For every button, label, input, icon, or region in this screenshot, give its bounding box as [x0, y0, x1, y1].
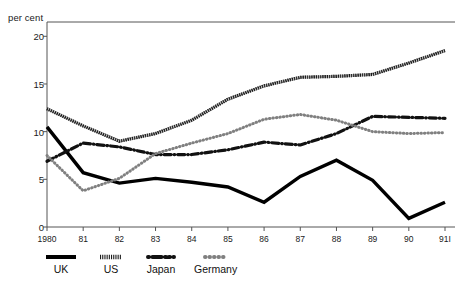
- plot-area: [0, 0, 462, 289]
- legend-label: UK: [54, 263, 69, 275]
- legend-entry-uk: UK: [44, 252, 78, 275]
- legend-label: US: [104, 263, 119, 275]
- solid-thick-swatch: [44, 252, 78, 262]
- legend-entry-us: US: [94, 252, 128, 275]
- legend-entry-japan: Japan: [144, 252, 178, 275]
- fine-hatched-swatch: [94, 252, 128, 262]
- chart-legend: UKUSJapanGermany: [44, 252, 253, 284]
- dotted-round-swatch: [199, 252, 233, 262]
- data-series-group: [47, 51, 445, 219]
- dash-dot-swatch: [144, 252, 178, 262]
- line-chart: per cent 05101520 1980818283848586878889…: [0, 0, 462, 289]
- legend-label: Japan: [147, 263, 176, 275]
- legend-label: Germany: [194, 263, 237, 275]
- legend-entry-germany: Germany: [194, 252, 237, 275]
- series-uk: [47, 127, 445, 219]
- series-japan: [47, 116, 445, 161]
